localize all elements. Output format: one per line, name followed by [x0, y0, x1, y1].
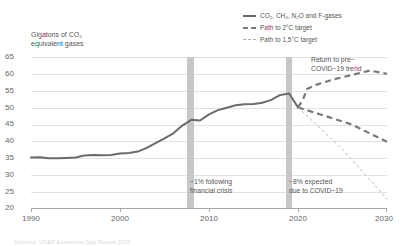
legend-swatch-dashed-icon: [243, 27, 256, 29]
y-tick-label-20: 20: [0, 203, 14, 212]
y-tick-label-55: 55: [0, 86, 14, 95]
chart-figure: CO₂, CH₄, N₂O and F-gases Path to 2°C ta…: [0, 0, 403, 246]
legend-item-total-gases: CO₂, CH₄, N₂O and F-gases: [243, 10, 401, 21]
y-axis-title-line2: equivalent gases: [31, 40, 84, 47]
legend-label-15c-path: Path to 1,5°C target: [260, 36, 317, 44]
annotation-financial-crisis: −1% following financial crisis: [190, 178, 232, 195]
series-2c-path-line: [298, 107, 387, 141]
annotation-covid-line1: −8% expected: [289, 178, 343, 187]
y-tick-label-30: 30: [0, 170, 14, 179]
legend-label-total-gases: CO₂, CH₄, N₂O and F-gases: [260, 12, 342, 20]
y-axis-title-line1: Gigatons of CO₂: [31, 31, 82, 38]
annotation-pre-covid-trend: Return to pre− COVID−19 trend: [311, 56, 361, 73]
y-tick-label-50: 50: [0, 103, 14, 112]
legend-item-2c-path: Path to 2°C target: [243, 22, 401, 33]
legend-label-2c-path: Path to 2°C target: [260, 24, 312, 32]
y-tick-label-40: 40: [0, 136, 14, 145]
annotation-financial-crisis-line2: financial crisis: [190, 187, 232, 196]
annotation-financial-crisis-line1: −1% following: [190, 178, 232, 187]
y-tick-label-60: 60: [0, 69, 14, 78]
annotation-pre-covid-trend-line1: Return to pre−: [311, 56, 361, 65]
y-tick-label-35: 35: [0, 153, 14, 162]
series-return-to-pre-covid-trend-line: [298, 71, 387, 108]
chart-legend: CO₂, CH₄, N₂O and F-gases Path to 2°C ta…: [243, 10, 401, 46]
x-tick-label-2000: 2000: [100, 214, 140, 223]
legend-item-15c-path: Path to 1,5°C target: [243, 34, 401, 45]
series-historical-emissions-line: [31, 94, 298, 159]
annotation-pre-covid-trend-line2: COVID−19 trend: [311, 65, 361, 74]
y-tick-label-65: 65: [0, 52, 14, 61]
x-tick-1990: [31, 209, 32, 212]
annotation-covid: −8% expected due to COVID−19: [289, 178, 343, 195]
x-tick-label-2030: 2030: [364, 214, 403, 223]
y-tick-label-45: 45: [0, 119, 14, 128]
y-axis-title: Gigatons of CO₂equivalent gases: [31, 31, 84, 48]
x-tick-label-2010: 2010: [189, 214, 229, 223]
x-tick-2030: [386, 209, 387, 212]
x-tick-label-2020: 2020: [278, 214, 318, 223]
annotation-covid-line2: due to COVID−19: [289, 187, 343, 196]
x-tick-2000: [120, 209, 121, 212]
y-tick-label-25: 25: [0, 187, 14, 196]
x-tick-2010: [209, 209, 210, 212]
legend-swatch-thin-dashed-icon: [243, 39, 256, 40]
legend-swatch-solid-icon: [243, 15, 256, 17]
chart-footnote: Sources: UNEP Emissions Gap Report 2020: [14, 239, 131, 245]
x-tick-label-1990: 1990: [11, 214, 51, 223]
x-tick-2020: [298, 209, 299, 212]
